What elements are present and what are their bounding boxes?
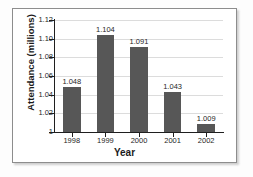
x-axis-tick-mark <box>206 133 207 137</box>
gridline <box>55 20 223 21</box>
bar-value-label: 1.104 <box>96 25 115 34</box>
bar <box>97 35 114 132</box>
y-axis-tick-mark <box>49 132 54 133</box>
x-axis-tick-mark <box>105 133 106 137</box>
bar-chart: Attendance (millions) 11.021.041.061.081… <box>13 9 236 162</box>
y-axis-tick-mark <box>49 57 54 58</box>
y-axis-tick-mark <box>49 39 54 40</box>
chart-page: Attendance (millions) 11.021.041.061.081… <box>0 0 253 177</box>
x-axis-tick-label: 2001 <box>164 136 181 145</box>
bar-value-label: 1.009 <box>197 114 216 123</box>
x-axis-tick-mark <box>72 133 73 137</box>
y-axis-tick-mark <box>49 20 54 21</box>
x-axis-tick-label: 2002 <box>198 136 215 145</box>
x-axis-tick-label: 1998 <box>63 136 80 145</box>
x-axis-tick-label: 1999 <box>97 136 114 145</box>
x-axis-tick-mark <box>173 133 174 137</box>
bar <box>130 47 147 132</box>
chart-card: Attendance (millions) 11.021.041.061.081… <box>12 8 237 163</box>
y-axis-tick-mark <box>49 76 54 77</box>
bar <box>63 87 80 132</box>
bar <box>197 124 214 132</box>
y-axis-line <box>54 19 55 133</box>
x-axis-tick-mark <box>139 133 140 137</box>
x-axis-title: Year <box>13 147 236 158</box>
bar-value-label: 1.091 <box>130 37 149 46</box>
bar <box>164 92 181 132</box>
x-axis-tick-label: 2000 <box>131 136 148 145</box>
y-axis-tick-mark <box>49 113 54 114</box>
bar-value-label: 1.048 <box>62 77 81 86</box>
y-axis-tick-mark <box>49 95 54 96</box>
bar-value-label: 1.043 <box>163 82 182 91</box>
